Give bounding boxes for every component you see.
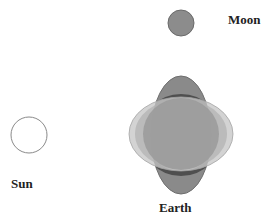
moon-label: Moon [228, 13, 261, 26]
moon-body [168, 10, 194, 36]
tide-diagram [0, 0, 274, 224]
earth-group [129, 76, 233, 194]
earth-label: Earth [159, 201, 192, 214]
earth-core [143, 98, 219, 170]
sun-body [11, 117, 47, 153]
sun-label: Sun [11, 177, 33, 190]
